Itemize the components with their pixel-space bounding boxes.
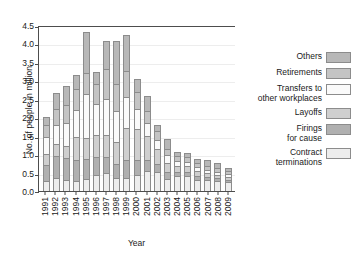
- x-tick-column: 1994: [70, 192, 80, 236]
- legend-item[interactable]: Others: [243, 52, 351, 63]
- stacked-bar-chart-figure: No. of people in million 0.00.51.01.52.0…: [0, 0, 355, 260]
- y-tick-label: 1.0: [12, 151, 34, 160]
- y-tick-label: 4.0: [12, 40, 34, 49]
- x-tick-column: 2003: [162, 192, 172, 236]
- stacked-bar-2004[interactable]: [174, 152, 181, 191]
- bar-column[interactable]: [183, 27, 193, 191]
- bar-segment: [44, 155, 49, 166]
- bar-segment: [155, 165, 160, 173]
- x-tick-mark: [156, 192, 157, 195]
- x-tick-mark: [166, 192, 167, 195]
- x-axis-tick-labels: 1991199219931994199519961997199819992000…: [38, 192, 235, 236]
- bar-column[interactable]: [122, 27, 132, 191]
- legend-item[interactable]: Layoffs: [243, 108, 351, 119]
- bar-column[interactable]: [142, 27, 152, 191]
- legend-item[interactable]: Contractterminations: [243, 148, 351, 167]
- x-tick-mark: [116, 192, 117, 195]
- bar-segment: [84, 95, 89, 139]
- bar-segment: [114, 85, 119, 112]
- bar-column[interactable]: [213, 27, 223, 191]
- stacked-bar-1996[interactable]: [93, 72, 100, 191]
- stacked-bar-2003[interactable]: [164, 139, 171, 191]
- x-tick-label: 2008: [214, 197, 223, 216]
- legend-label: Retirements: [276, 68, 326, 78]
- bar-column[interactable]: [81, 27, 91, 191]
- stacked-bar-2000[interactable]: [134, 79, 141, 191]
- stacked-bar-1995[interactable]: [83, 32, 90, 191]
- stacked-bar-2002[interactable]: [154, 125, 161, 191]
- bar-segment: [54, 126, 59, 145]
- bar-segment: [114, 112, 119, 143]
- bar-segment: [124, 129, 129, 161]
- x-tick-label: 2002: [153, 197, 162, 216]
- x-tick-label: 1994: [72, 197, 81, 216]
- chart-legend: OthersRetirementsTransfers toother workp…: [243, 52, 351, 172]
- stacked-bar-1994[interactable]: [73, 75, 80, 191]
- legend-item[interactable]: Retirements: [243, 68, 351, 79]
- plot-area: [38, 26, 235, 192]
- bar-column[interactable]: [61, 27, 71, 191]
- bar-column[interactable]: [71, 27, 81, 191]
- stacked-bar-2005[interactable]: [184, 153, 191, 191]
- x-tick-label: 2003: [163, 197, 172, 216]
- stacked-bar-2008[interactable]: [214, 163, 221, 191]
- bar-column[interactable]: [152, 27, 162, 191]
- stacked-bar-1997[interactable]: [103, 41, 110, 191]
- bar-column[interactable]: [112, 27, 122, 191]
- bar-segment: [104, 70, 109, 100]
- bar-column[interactable]: [162, 27, 172, 191]
- bar-column[interactable]: [132, 27, 142, 191]
- bar-column[interactable]: [102, 27, 112, 191]
- legend-item[interactable]: Transfers toother workplaces: [243, 84, 351, 103]
- bar-segment: [165, 140, 170, 150]
- bar-segment: [94, 136, 99, 158]
- bar-column[interactable]: [203, 27, 213, 191]
- stacked-bar-1991[interactable]: [43, 117, 50, 191]
- x-tick-mark: [45, 192, 46, 195]
- bar-segment: [44, 118, 49, 126]
- stacked-bar-1998[interactable]: [113, 41, 120, 191]
- x-tick-column: 2001: [142, 192, 152, 236]
- bar-segment: [64, 124, 69, 147]
- x-tick-mark: [227, 192, 228, 195]
- bar-segment: [84, 180, 89, 191]
- bar-column[interactable]: [41, 27, 51, 191]
- bar-column[interactable]: [172, 27, 182, 191]
- bar-segment: [114, 42, 119, 85]
- bar-segment: [124, 161, 129, 179]
- bar-column[interactable]: [92, 27, 102, 191]
- bar-segment: [94, 73, 99, 85]
- stacked-bar-2009[interactable]: [225, 168, 232, 191]
- legend-item[interactable]: Firingsfor cause: [243, 124, 351, 143]
- bar-segment: [135, 176, 140, 191]
- x-tick-mark: [146, 192, 147, 195]
- bar-segment: [94, 158, 99, 176]
- bar-column[interactable]: [223, 27, 233, 191]
- x-tick-label: 2000: [132, 197, 141, 216]
- x-axis-title: Year: [38, 238, 235, 248]
- stacked-bar-2006[interactable]: [194, 159, 201, 191]
- x-tick-column: 2008: [213, 192, 223, 236]
- x-tick-column: 1993: [60, 192, 70, 236]
- x-tick-mark: [207, 192, 208, 195]
- x-tick-label: 2001: [143, 197, 152, 216]
- bar-column[interactable]: [193, 27, 203, 191]
- bar-segment: [94, 85, 99, 105]
- stacked-bar-1992[interactable]: [53, 93, 60, 191]
- stacked-bar-1993[interactable]: [63, 86, 70, 191]
- bar-segment: [54, 110, 59, 126]
- stacked-bar-1999[interactable]: [123, 35, 130, 191]
- bar-segment: [145, 137, 150, 161]
- legend-swatch: [326, 148, 351, 159]
- x-tick-column: 2009: [223, 192, 233, 236]
- x-tick-column: 1992: [50, 192, 60, 236]
- bar-segment: [155, 141, 160, 150]
- x-tick-label: 2004: [173, 197, 182, 216]
- x-tick-mark: [217, 192, 218, 195]
- bar-column[interactable]: [51, 27, 61, 191]
- bar-segment: [135, 110, 140, 130]
- stacked-bar-2001[interactable]: [144, 96, 151, 191]
- stacked-bar-2007[interactable]: [204, 160, 211, 191]
- x-tick-column: 2007: [203, 192, 213, 236]
- bar-segment: [165, 173, 170, 180]
